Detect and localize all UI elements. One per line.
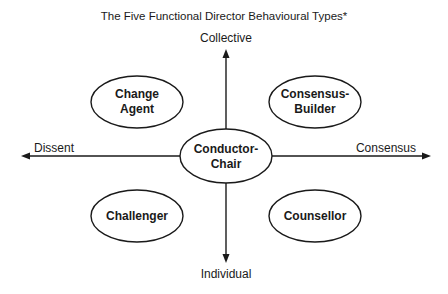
diagram-title: The Five Functional Director Behavioural…: [101, 10, 348, 22]
axis-label-dissent: Dissent: [34, 141, 75, 155]
arrow-up-icon: [223, 49, 230, 58]
node-label-line1: Consensus-: [281, 87, 350, 101]
arrow-left-icon: [21, 153, 30, 160]
axis-label-individual: Individual: [201, 267, 252, 281]
axis-label-consensus: Consensus: [356, 141, 416, 155]
axis-label-collective: Collective: [200, 31, 252, 45]
arrow-down-icon: [223, 254, 230, 263]
node-counsellor: Counsellor: [269, 190, 361, 242]
node-label-line2: Agent: [120, 102, 154, 116]
node-label-line2: Chair: [211, 157, 242, 171]
node-change-agent: Change Agent: [91, 76, 183, 128]
node-label-line1: Change: [115, 87, 159, 101]
node-challenger: Challenger: [91, 190, 183, 242]
node-label-line2: Builder: [294, 102, 336, 116]
node-label: Counsellor: [284, 209, 347, 223]
node-label-line1: Conductor-: [194, 142, 259, 156]
node-label: Challenger: [106, 209, 168, 223]
node-consensus-builder: Consensus- Builder: [269, 76, 361, 128]
arrow-right-icon: [422, 153, 431, 160]
node-conductor-chair: Conductor- Chair: [180, 129, 272, 183]
behavioural-types-diagram: The Five Functional Director Behavioural…: [0, 0, 448, 294]
